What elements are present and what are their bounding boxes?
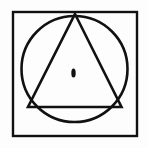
figure-canvas bbox=[0, 0, 148, 148]
geometric-symbol-figure bbox=[0, 0, 148, 148]
center-dot-shape bbox=[71, 68, 75, 77]
